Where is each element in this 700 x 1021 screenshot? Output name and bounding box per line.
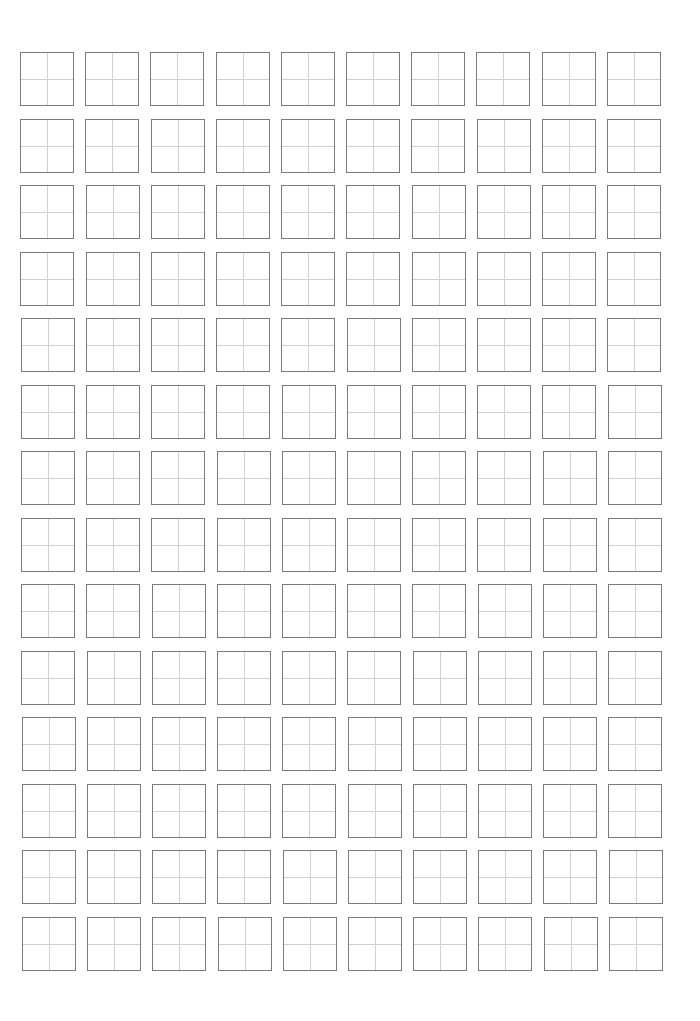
writing-cell [348,717,402,771]
writing-cell [282,518,336,572]
writing-cell [478,784,532,838]
writing-cell [217,651,271,705]
writing-cell [151,119,205,173]
horizontal-guide-line [283,611,335,612]
writing-cell [346,185,400,239]
horizontal-guide-line [414,944,466,945]
horizontal-guide-line [152,146,204,147]
horizontal-guide-line [348,478,400,479]
writing-cell [87,717,141,771]
writing-cell [412,518,466,572]
horizontal-guide-line [87,412,139,413]
writing-cell [21,451,75,505]
writing-cell [87,651,141,705]
horizontal-guide-line [86,79,138,80]
horizontal-guide-line [348,678,400,679]
horizontal-guide-line [608,279,660,280]
writing-cell [478,651,532,705]
writing-cell [87,917,141,971]
writing-cell [282,584,336,638]
writing-cell [86,318,140,372]
writing-cell [282,385,336,439]
horizontal-guide-line [88,811,140,812]
horizontal-guide-line [610,944,662,945]
horizontal-guide-line [282,345,334,346]
horizontal-guide-line [153,877,205,878]
writing-cell [346,119,400,173]
horizontal-guide-line [87,279,139,280]
writing-cell [281,185,335,239]
writing-cell [22,784,76,838]
writing-cell [476,52,530,106]
horizontal-guide-line [609,678,661,679]
horizontal-guide-line [87,545,139,546]
writing-cell [542,318,596,372]
writing-cell [411,52,465,106]
writing-cell [217,717,271,771]
horizontal-guide-line [87,212,139,213]
horizontal-guide-line [218,478,270,479]
writing-cell [85,52,139,106]
horizontal-guide-line [544,744,596,745]
horizontal-guide-line [414,877,466,878]
writing-cell [347,518,401,572]
writing-cell [543,717,597,771]
horizontal-guide-line [413,279,465,280]
writing-cell [283,917,337,971]
horizontal-guide-line [282,212,334,213]
horizontal-guide-line [88,678,140,679]
horizontal-guide-line [545,944,597,945]
writing-cell [412,451,466,505]
horizontal-guide-line [544,877,596,878]
horizontal-guide-line [347,79,399,80]
grid-row [20,52,665,106]
writing-cell [217,451,271,505]
writing-cell [151,318,205,372]
horizontal-guide-line [282,146,334,147]
writing-cell [477,385,531,439]
writing-cell [607,318,661,372]
horizontal-guide-line [153,744,205,745]
horizontal-guide-line [153,811,205,812]
writing-cell [607,52,661,106]
horizontal-guide-line [478,212,530,213]
horizontal-guide-line [282,79,334,80]
horizontal-guide-line [283,412,335,413]
horizontal-guide-line [544,545,596,546]
horizontal-guide-line [283,744,335,745]
writing-cell [412,185,466,239]
horizontal-guide-line [22,345,74,346]
horizontal-guide-line [86,146,138,147]
horizontal-guide-line [543,279,595,280]
horizontal-guide-line [348,345,400,346]
horizontal-guide-line [347,146,399,147]
writing-cell [347,584,401,638]
writing-cell [413,784,467,838]
horizontal-guide-line [87,345,139,346]
horizontal-guide-line [543,345,595,346]
horizontal-guide-line [412,79,464,80]
horizontal-guide-line [348,611,400,612]
writing-cell [609,917,663,971]
writing-cell [152,584,206,638]
horizontal-guide-line [479,678,531,679]
writing-cell [216,385,270,439]
horizontal-guide-line [478,279,530,280]
grid-row [20,252,665,306]
horizontal-guide-line [217,146,269,147]
horizontal-guide-line [217,345,269,346]
writing-cell [151,252,205,306]
writing-cell [282,651,336,705]
writing-cell [346,52,400,106]
horizontal-guide-line [479,877,531,878]
grid-row [20,917,665,971]
writing-cell [86,451,140,505]
grid-row [20,850,665,904]
horizontal-guide-line [218,545,270,546]
horizontal-guide-line [88,877,140,878]
horizontal-guide-line [349,744,401,745]
horizontal-guide-line [152,212,204,213]
writing-cell [412,252,466,306]
horizontal-guide-line [282,279,334,280]
writing-cell [281,318,335,372]
